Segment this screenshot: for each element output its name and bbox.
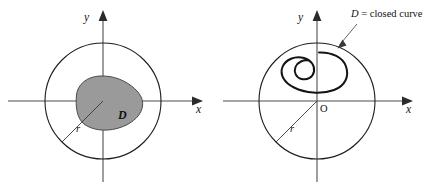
origin-label-o: O	[320, 104, 328, 115]
shaded-region-d	[76, 76, 143, 130]
closed-curve-callout-label: D = closed curve	[351, 9, 423, 20]
x-axis-label-right: x	[406, 104, 411, 116]
y-axis-label-left: y	[84, 12, 89, 24]
callout-symbol: D	[351, 8, 359, 19]
shaded-region-panel: y x D r	[0, 0, 216, 191]
radius-label-right: r	[290, 124, 294, 135]
y-axis-right	[313, 10, 322, 182]
callout-rest: = closed curve	[359, 8, 423, 19]
x-axis-label-left: x	[196, 104, 201, 116]
region-label-d: D	[118, 109, 127, 121]
x-axis-right	[223, 97, 413, 106]
math-figure: y x D r	[0, 0, 431, 191]
callout-leader-right	[338, 24, 358, 49]
y-axis-label-right: y	[298, 12, 303, 24]
radius-segment-right	[276, 101, 317, 142]
closed-curve-d	[282, 52, 348, 92]
radius-label-left: r	[76, 124, 80, 135]
closed-curve-panel: y x O r D = closed curve	[215, 0, 431, 191]
